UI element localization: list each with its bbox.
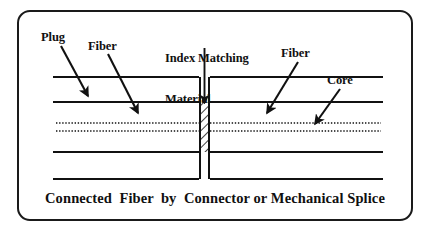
fiber-left-leader-arrow bbox=[108, 54, 138, 113]
plug-leader-arrow bbox=[61, 46, 88, 96]
figure-caption: Connected Fiber by Connector or Mechanic… bbox=[17, 190, 413, 207]
label-index-matching-line1: Index Matching bbox=[165, 52, 249, 66]
label-core: Core bbox=[327, 74, 353, 88]
core-leader-arrow bbox=[315, 89, 340, 124]
label-fiber-right: Fiber bbox=[281, 47, 310, 61]
fiber-right-leader-arrow bbox=[267, 62, 298, 113]
label-fiber-left: Fiber bbox=[88, 40, 117, 54]
label-index-matching-material: Index Matching Material bbox=[165, 25, 249, 133]
label-index-matching-line2: Material bbox=[165, 93, 249, 107]
figure-canvas: Plug Fiber Index Matching Material Fiber… bbox=[0, 0, 432, 239]
label-plug: Plug bbox=[41, 31, 65, 45]
